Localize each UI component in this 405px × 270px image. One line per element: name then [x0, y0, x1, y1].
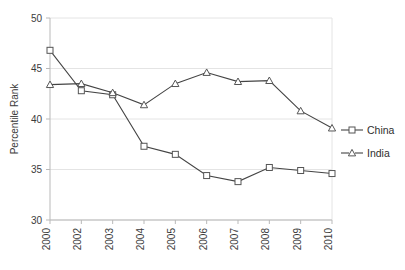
chart-legend: ChinaIndia: [341, 124, 395, 159]
x-tick-label-2007: 2007: [229, 228, 240, 251]
legend-marker-india: [348, 149, 355, 155]
series-line-india: [50, 73, 332, 129]
data-point-china-2008: [266, 164, 272, 170]
y-tick-label-50: 50: [31, 13, 43, 24]
y-tick-label-45: 45: [31, 63, 43, 74]
data-point-india-2010: [328, 124, 335, 130]
data-point-china-2009: [298, 168, 304, 174]
data-point-china-2004: [141, 143, 147, 149]
data-point-china-2000: [47, 47, 53, 53]
y-axis-title-text: Percentile Rank: [9, 83, 20, 155]
x-tick-label-2003: 2003: [104, 228, 115, 251]
data-point-china-2002: [78, 88, 84, 94]
y-axis-title: Percentile Rank: [9, 83, 20, 155]
y-tick-label-35: 35: [31, 164, 43, 175]
x-tick-label-2008: 2008: [260, 228, 271, 251]
y-axis-ticks: 3035404550: [31, 13, 50, 226]
chart-container: 3035404550 20002002200320042005200620072…: [0, 0, 405, 270]
x-axis-ticks: 2000200220032004200520062007200820092010: [41, 220, 334, 250]
data-point-china-2007: [235, 179, 241, 185]
x-tick-label-2000: 2000: [41, 228, 52, 251]
data-point-china-2006: [204, 173, 210, 179]
data-point-india-2006: [203, 69, 210, 75]
data-point-china-2005: [172, 151, 178, 157]
x-tick-label-2005: 2005: [166, 228, 177, 251]
x-tick-label-2010: 2010: [323, 228, 334, 251]
x-tick-label-2002: 2002: [72, 228, 83, 251]
line-chart: 3035404550 20002002200320042005200620072…: [0, 0, 405, 270]
y-tick-label-30: 30: [31, 215, 43, 226]
x-tick-label-2004: 2004: [135, 228, 146, 251]
data-point-india-2004: [140, 101, 147, 107]
legend-marker-china: [349, 127, 355, 133]
gridlines: [50, 18, 332, 220]
x-tick-label-2006: 2006: [198, 228, 209, 251]
legend-label-india: India: [367, 147, 390, 159]
legend-label-china: China: [367, 124, 395, 136]
x-tick-label-2009: 2009: [292, 228, 303, 251]
series-line-china: [50, 50, 332, 181]
data-point-china-2010: [329, 171, 335, 177]
data-series: [46, 47, 335, 184]
y-tick-label-40: 40: [31, 114, 43, 125]
